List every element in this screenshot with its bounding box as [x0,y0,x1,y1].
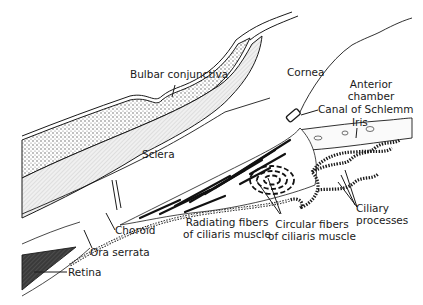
label-circular-fibers-line1: Circular fibers [262,218,362,230]
label-iris: Iris [352,116,368,128]
label-circular-fibers-line2: of ciliaris muscle [262,230,362,242]
label-sclera: Sclera [142,148,175,160]
label-ora-serrata: Ora serrata [90,246,150,258]
label-ciliary-processes-line2: processes [356,214,408,226]
label-ciliary-processes-line1: Ciliary [356,202,389,214]
label-choroid: Choroid [115,224,156,236]
label-canal-of-schlemm: Canal of Schlemm [318,103,414,115]
diagram-artwork [0,0,423,305]
label-anterior-chamber-line2: chamber [343,90,399,102]
canal-of-schlemm [286,108,301,122]
label-cornea: Cornea [287,66,324,78]
label-anterior-chamber-line1: Anterior [343,78,399,90]
eye-anatomy-diagram: Bulbar conjunctiva Cornea Anterior chamb… [0,0,423,305]
label-retina: Retina [68,266,101,278]
label-bulbar-conjunctiva: Bulbar conjunctiva [130,68,228,80]
